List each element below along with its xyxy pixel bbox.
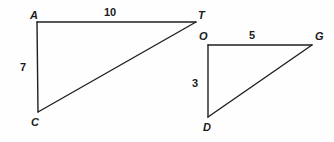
side-length-od: 3 (192, 78, 198, 89)
side-length-ac: 7 (20, 62, 26, 73)
vertex-label-d: D (203, 122, 211, 133)
vertex-label-c: C (31, 117, 39, 128)
side-length-at: 10 (104, 7, 116, 18)
segment-CT (38, 22, 196, 112)
triangle-ATC-shape (37, 22, 196, 112)
geometry-diagram-canvas: A T C O G D 10 7 5 3 (0, 0, 334, 142)
side-length-og: 5 (249, 30, 255, 41)
vertex-label-a: A (30, 10, 38, 21)
vertex-label-g: G (315, 31, 324, 42)
triangle-OGD-shape (208, 45, 312, 117)
triangles-svg (0, 0, 334, 142)
vertex-label-o: O (199, 31, 208, 42)
segment-AC (37, 22, 38, 112)
segment-DG (208, 45, 312, 117)
vertex-label-t: T (198, 10, 205, 21)
